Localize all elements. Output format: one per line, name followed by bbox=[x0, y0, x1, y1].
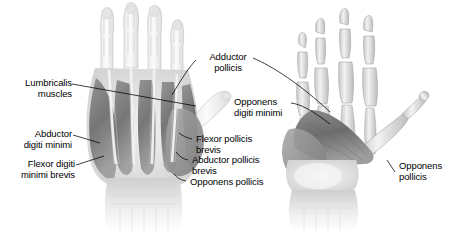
right-hand-deep bbox=[282, 9, 431, 231]
label-abductor-digiti-minimi: Abductor digiti minimi bbox=[4, 128, 72, 150]
left-hand-fingers bbox=[101, 3, 184, 75]
left-hand-wrist bbox=[105, 178, 182, 231]
label-flexor-digiti-minimi-brevis: Flexor digiti minimi brevis bbox=[2, 158, 75, 180]
label-abductor-pollicis-brevis: Abductor pollicis brevis bbox=[192, 154, 278, 176]
right-hand-fingers bbox=[297, 9, 378, 116]
left-hand-superficial bbox=[86, 3, 231, 232]
hand-illustration bbox=[0, 0, 463, 231]
label-flexor-pollicis-brevis: Flexor pollicis brevis bbox=[196, 133, 274, 155]
label-lumbricalis-muscles: Lumbricalis muscles bbox=[8, 77, 72, 99]
right-hand-wrist bbox=[289, 190, 358, 231]
label-opponens-pollicis-right: Opponens pollicis bbox=[399, 160, 459, 182]
leader-opponens-pollicis-right bbox=[387, 160, 395, 172]
label-opponens-digiti-minimi: Opponens digiti minimi bbox=[234, 96, 292, 118]
label-adductor-pollicis: Adductor pollicis bbox=[202, 51, 254, 73]
label-opponens-pollicis-center: Opponens pollicis bbox=[190, 176, 282, 187]
hand-anatomy-figure: Lumbricalis muscles Abductor digiti mini… bbox=[0, 0, 463, 231]
